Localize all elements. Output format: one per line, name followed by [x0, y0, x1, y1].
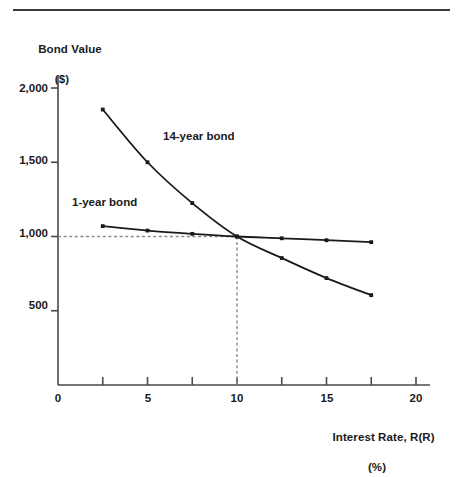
- data-point-markers-group: [101, 108, 373, 297]
- x-axis-unit-text: (%): [318, 460, 436, 475]
- axes-group: [58, 75, 430, 385]
- reference-lines-group: [58, 237, 237, 386]
